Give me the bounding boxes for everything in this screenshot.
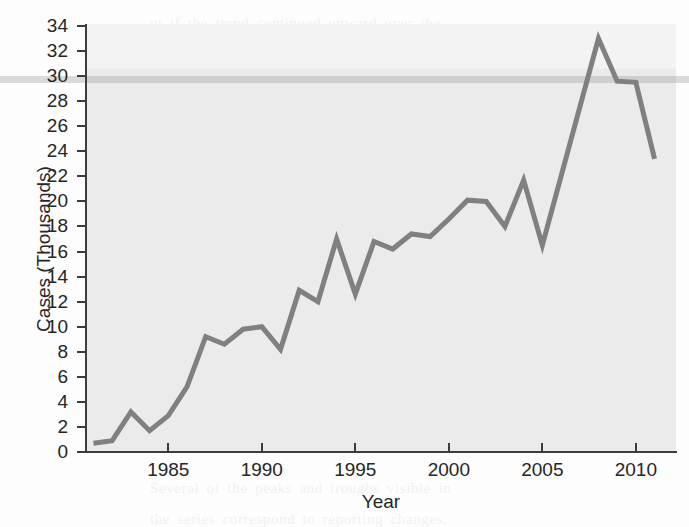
y-axis-title: Cases (Thousands) (33, 119, 55, 379)
series-line-cases (93, 39, 654, 444)
chart-screenshot: ut if the trend continued upward over th… (0, 0, 689, 527)
line-series-cases (0, 0, 689, 527)
x-axis-title: Year (85, 491, 677, 513)
